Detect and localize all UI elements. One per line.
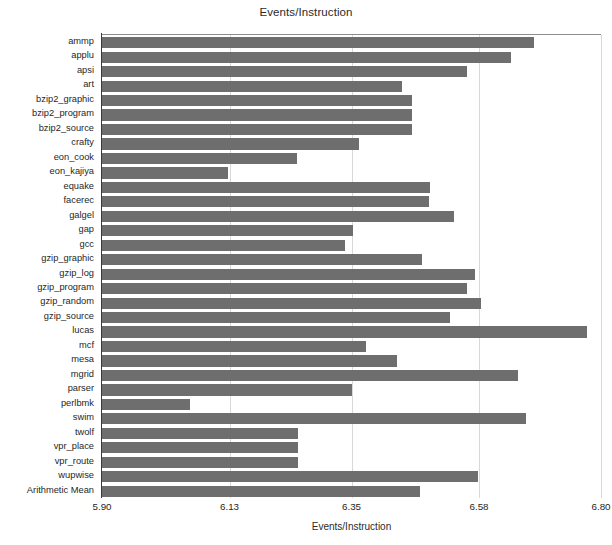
bar-row[interactable] <box>102 78 601 92</box>
y-axis-label: twolf <box>0 425 98 439</box>
bar[interactable] <box>102 240 345 251</box>
bar[interactable] <box>102 182 430 193</box>
bar-row[interactable] <box>102 324 601 338</box>
bar[interactable] <box>102 428 298 439</box>
bar[interactable] <box>102 312 450 323</box>
bar-row[interactable] <box>102 426 601 440</box>
bar-row[interactable] <box>102 295 601 309</box>
x-axis-tick-label: 5.90 <box>92 501 111 512</box>
y-axis-label: gap <box>0 222 98 236</box>
bar[interactable] <box>102 413 526 424</box>
bar[interactable] <box>102 95 412 106</box>
y-axis-label: gzip_program <box>0 280 98 294</box>
bar-row[interactable] <box>102 339 601 353</box>
bar-row[interactable] <box>102 267 601 281</box>
bar-row[interactable] <box>102 353 601 367</box>
y-axis-label: Arithmetic Mean <box>0 483 98 497</box>
bar[interactable] <box>102 211 454 222</box>
y-axis-label: vpr_route <box>0 454 98 468</box>
y-axis-label: mcf <box>0 338 98 352</box>
bar-row[interactable] <box>102 93 601 107</box>
bar-row[interactable] <box>102 35 601 49</box>
bar-row[interactable] <box>102 238 601 252</box>
bar-row[interactable] <box>102 209 601 223</box>
chart-container: Events/Instruction ammpappluapsiartbzip2… <box>0 0 612 545</box>
y-axis-label: eon_kajiya <box>0 164 98 178</box>
y-axis-label: crafty <box>0 135 98 149</box>
bar-row[interactable] <box>102 223 601 237</box>
bar-row[interactable] <box>102 136 601 150</box>
bar-row[interactable] <box>102 252 601 266</box>
y-axis-label: gzip_random <box>0 294 98 308</box>
x-axis-tick-label: 6.80 <box>591 501 610 512</box>
bar-row[interactable] <box>102 382 601 396</box>
y-axis-label: art <box>0 77 98 91</box>
bar[interactable] <box>102 370 518 381</box>
y-axis-label: gzip_graphic <box>0 251 98 265</box>
bar-row[interactable] <box>102 107 601 121</box>
bar-row[interactable] <box>102 281 601 295</box>
y-axis-label: bzip2_source <box>0 121 98 135</box>
bar[interactable] <box>102 326 587 337</box>
y-axis-label: gcc <box>0 237 98 251</box>
plot-area <box>102 34 601 497</box>
bar[interactable] <box>102 225 353 236</box>
bar[interactable] <box>102 471 478 482</box>
bar-row[interactable] <box>102 469 601 483</box>
bar-row[interactable] <box>102 122 601 136</box>
chart-title: Events/Instruction <box>0 6 612 18</box>
y-axis-label: wupwise <box>0 468 98 482</box>
bar-row[interactable] <box>102 165 601 179</box>
bar-row[interactable] <box>102 180 601 194</box>
bar-series <box>102 35 601 498</box>
bar[interactable] <box>102 81 402 92</box>
bar-row[interactable] <box>102 411 601 425</box>
bar-row[interactable] <box>102 310 601 324</box>
bar-row[interactable] <box>102 440 601 454</box>
y-axis-label: perlbmk <box>0 396 98 410</box>
y-axis-category-labels: ammpappluapsiartbzip2_graphicbzip2_progr… <box>0 34 98 497</box>
bar[interactable] <box>102 153 297 164</box>
bar[interactable] <box>102 341 366 352</box>
bar[interactable] <box>102 457 298 468</box>
bar[interactable] <box>102 298 481 309</box>
bar[interactable] <box>102 486 420 497</box>
x-axis-tick-label: 6.58 <box>469 501 488 512</box>
y-axis-label: ammp <box>0 34 98 48</box>
bar[interactable] <box>102 283 467 294</box>
bar[interactable] <box>102 196 429 207</box>
bar[interactable] <box>102 355 397 366</box>
y-axis-label: eon_cook <box>0 150 98 164</box>
y-axis-label: apsi <box>0 63 98 77</box>
bar[interactable] <box>102 384 352 395</box>
y-axis-label: equake <box>0 179 98 193</box>
x-axis-tick-label: 6.35 <box>342 501 361 512</box>
x-axis-title: Events/Instruction <box>102 521 601 532</box>
y-axis-label: gzip_source <box>0 309 98 323</box>
bar-row[interactable] <box>102 397 601 411</box>
bar[interactable] <box>102 52 511 63</box>
bar-row[interactable] <box>102 151 601 165</box>
bar[interactable] <box>102 37 534 48</box>
bar-row[interactable] <box>102 484 601 498</box>
y-axis-label: gzip_log <box>0 266 98 280</box>
y-axis-label: applu <box>0 48 98 62</box>
bar[interactable] <box>102 66 467 77</box>
bar[interactable] <box>102 109 412 120</box>
bar-row[interactable] <box>102 455 601 469</box>
bar-row[interactable] <box>102 368 601 382</box>
bar[interactable] <box>102 399 190 410</box>
bar[interactable] <box>102 254 422 265</box>
y-axis-label: mgrid <box>0 367 98 381</box>
bar[interactable] <box>102 167 228 178</box>
bar-row[interactable] <box>102 194 601 208</box>
bar-row[interactable] <box>102 49 601 63</box>
bar[interactable] <box>102 138 359 149</box>
bar-row[interactable] <box>102 64 601 78</box>
bar[interactable] <box>102 124 412 135</box>
y-axis-label: bzip2_graphic <box>0 92 98 106</box>
y-axis-label: bzip2_program <box>0 106 98 120</box>
bar[interactable] <box>102 269 475 280</box>
y-axis-label: vpr_place <box>0 439 98 453</box>
bar[interactable] <box>102 442 298 453</box>
